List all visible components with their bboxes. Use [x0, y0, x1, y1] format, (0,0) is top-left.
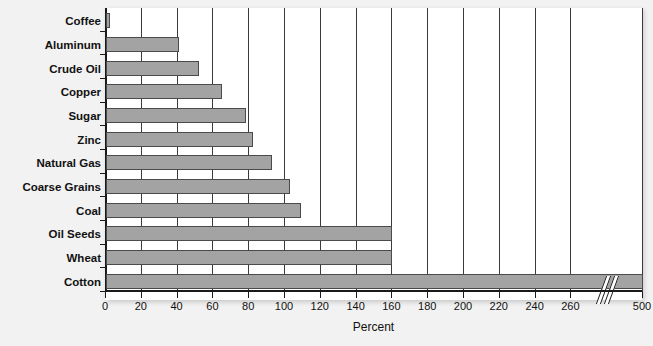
- tick-label-260: 260: [561, 299, 579, 313]
- x-tick-labels: 020406080100120140160180200220240260500: [0, 299, 653, 315]
- category-label-coffee: Coffee: [0, 14, 101, 28]
- tick-label-500: 500: [633, 299, 651, 313]
- tick-mark-80: [248, 292, 249, 298]
- tick-mark-20: [141, 292, 142, 298]
- gridline-500: [642, 8, 643, 292]
- tick-mark-200: [463, 292, 464, 298]
- bar-chart-figure: 020406080100120140160180200220240260500 …: [0, 0, 653, 346]
- bar-series: [105, 8, 642, 300]
- tick-label-220: 220: [490, 299, 508, 313]
- tick-mark-120: [320, 292, 321, 298]
- bar-sugar: [106, 108, 246, 123]
- bar-crude-oil: [106, 61, 199, 76]
- category-label-wheat: Wheat: [0, 251, 101, 265]
- tick-label-80: 80: [242, 299, 254, 313]
- bar-wheat: [106, 250, 392, 265]
- tick-mark-220: [499, 292, 500, 298]
- y-category-labels: CoffeeAluminumCrude OilCopperSugarZincNa…: [0, 8, 101, 300]
- tick-label-200: 200: [454, 299, 472, 313]
- bar-coal: [106, 203, 301, 218]
- tick-mark-40: [177, 292, 178, 298]
- tick-label-100: 100: [275, 299, 293, 313]
- tick-label-20: 20: [135, 299, 147, 313]
- tick-label-0: 0: [102, 299, 108, 313]
- bar-oil-seeds: [106, 226, 392, 241]
- tick-mark-260: [570, 292, 571, 298]
- tick-label-140: 140: [346, 299, 364, 313]
- tick-mark-180: [427, 292, 428, 298]
- category-label-cotton: Cotton: [0, 275, 101, 289]
- tick-mark-500: [642, 292, 643, 298]
- tick-mark-240: [535, 292, 536, 298]
- category-label-copper: Copper: [0, 85, 101, 99]
- tick-mark-100: [284, 292, 285, 298]
- tick-mark-0: [105, 292, 106, 298]
- bar-coffee: [106, 13, 110, 28]
- tick-mark-60: [212, 292, 213, 298]
- tick-label-120: 120: [311, 299, 329, 313]
- bar-coarse-grains: [106, 179, 290, 194]
- category-label-natural-gas: Natural Gas: [0, 156, 101, 170]
- category-label-aluminum: Aluminum: [0, 38, 101, 52]
- bar-natural-gas: [106, 155, 272, 170]
- tick-mark-160: [391, 292, 392, 298]
- tick-label-60: 60: [206, 299, 218, 313]
- category-label-oil-seeds: Oil Seeds: [0, 227, 101, 241]
- category-label-coal: Coal: [0, 204, 101, 218]
- bar-zinc: [106, 132, 253, 147]
- tick-label-240: 240: [525, 299, 543, 313]
- tick-mark-140: [356, 292, 357, 298]
- x-tick-marks: [105, 292, 642, 298]
- bar-copper: [106, 84, 222, 99]
- category-label-sugar: Sugar: [0, 109, 101, 123]
- tick-label-40: 40: [170, 299, 182, 313]
- bar-aluminum: [106, 37, 179, 52]
- category-label-zinc: Zinc: [0, 133, 101, 147]
- tick-label-180: 180: [418, 299, 436, 313]
- x-axis-title: Percent: [105, 320, 642, 334]
- tick-label-160: 160: [382, 299, 400, 313]
- category-label-crude-oil: Crude Oil: [0, 62, 101, 76]
- category-label-coarse-grains: Coarse Grains: [0, 180, 101, 194]
- bar-cotton: [106, 274, 643, 289]
